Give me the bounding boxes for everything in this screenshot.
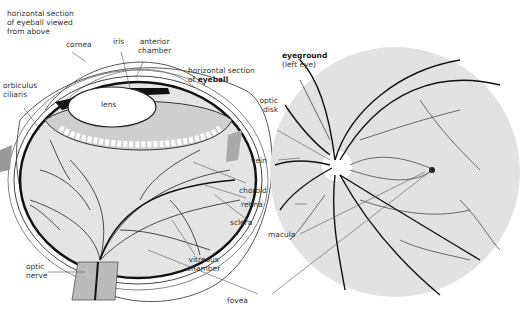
label-line: optic: [26, 262, 48, 271]
label-line: disk: [258, 105, 278, 114]
label-lens: lens: [101, 100, 116, 109]
label-eyeground: eyeground (left eye): [282, 51, 327, 69]
label-optic-disk: optic disk: [258, 96, 278, 114]
label-orbiculus-ciliaris: orbiculus ciliaris: [3, 81, 37, 99]
label-line: chamber: [138, 46, 171, 55]
label-choroid: choroid: [239, 186, 267, 195]
label-bold: eyeground: [282, 51, 327, 60]
label-line: of eyeball: [188, 75, 255, 84]
title-line: of eyeball viewed: [7, 18, 74, 27]
label-sclera: sclera: [230, 218, 252, 227]
label-retina: retina: [241, 200, 263, 209]
label-cornea: cornea: [66, 40, 92, 49]
label-bold: eyeball: [198, 75, 229, 84]
label-line: optic: [258, 96, 278, 105]
label-vitreous-chamber: vitreous chamber: [187, 255, 220, 273]
label-vein: vein: [251, 156, 267, 165]
label-line: horizontal section: [188, 66, 255, 75]
label-line: anterior: [138, 37, 171, 46]
label-section-eyeball: horizontal section of eyeball: [188, 66, 255, 84]
label-optic-nerve: optic nerve: [26, 262, 48, 280]
label-fovea: fovea: [227, 296, 248, 305]
label-line: vitreous: [187, 255, 220, 264]
label-anterior-chamber: anterior chamber: [138, 37, 171, 55]
label-iris: iris: [113, 37, 124, 46]
label-line: (left eye): [282, 60, 327, 69]
label-line: ciliaris: [3, 90, 37, 99]
label-prefix: of: [188, 75, 198, 84]
eyeground: [270, 47, 520, 297]
title-line: from above: [7, 27, 74, 36]
title-line: horizontal section: [7, 9, 74, 18]
label-line: nerve: [26, 271, 48, 280]
title-left: horizontal section of eyeball viewed fro…: [7, 9, 74, 36]
label-macula: macula: [268, 230, 295, 239]
label-line: chamber: [187, 264, 220, 273]
label-line: orbiculus: [3, 81, 37, 90]
